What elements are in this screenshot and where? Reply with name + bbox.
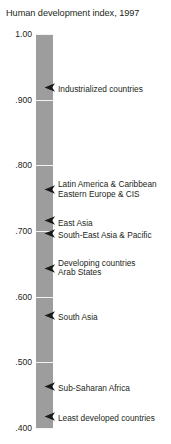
axis-tick-label: .800 bbox=[0, 160, 32, 170]
gridline-p600 bbox=[36, 297, 53, 298]
annotation-group: Latin America & CaribbeanEastern Europe … bbox=[44, 180, 157, 199]
hdi-scale-chart: Human development index, 1997 1.00.900.8… bbox=[0, 0, 171, 444]
arrow-left-icon bbox=[44, 382, 56, 391]
annotation-label: Sub-Saharan Africa bbox=[58, 383, 130, 393]
page-title: Human development index, 1997 bbox=[6, 8, 139, 18]
arrow-left-icon bbox=[44, 311, 56, 320]
annotation-label: Eastern Europe & CIS bbox=[58, 190, 157, 200]
annotation-label: Arab States bbox=[58, 268, 135, 278]
annotation-label-stack: Industrialized countries bbox=[58, 78, 143, 96]
arrow-left-icon bbox=[44, 264, 56, 273]
annotation-group: Developing countriesArab States bbox=[44, 259, 135, 278]
arrow-left-icon bbox=[44, 412, 56, 421]
gridline-p800 bbox=[36, 165, 53, 166]
axis-tick-label: .500 bbox=[0, 357, 32, 367]
arrow-left-icon bbox=[44, 83, 56, 92]
axis-tick-label: .400 bbox=[0, 423, 32, 433]
annotation-group: Least developed countries bbox=[44, 407, 155, 425]
gridline-p500 bbox=[36, 362, 53, 363]
annotation-label: South-East Asia & Pacific bbox=[58, 230, 152, 240]
axis-tick-label: .900 bbox=[0, 95, 32, 105]
annotation-group: Industrialized countries bbox=[44, 78, 143, 96]
annotation-label-stack: South-East Asia & Pacific bbox=[58, 224, 152, 242]
annotation-group: South Asia bbox=[44, 306, 98, 324]
annotation-label: South Asia bbox=[58, 312, 98, 322]
annotation-label-stack: Least developed countries bbox=[58, 407, 155, 425]
annotation-label: Least developed countries bbox=[58, 413, 155, 423]
annotation-label-stack: Developing countriesArab States bbox=[58, 259, 135, 278]
annotation-label: Industrialized countries bbox=[58, 84, 143, 94]
axis-tick-label: .600 bbox=[0, 292, 32, 302]
gridline-1p00 bbox=[36, 34, 53, 35]
annotation-label-stack: South Asia bbox=[58, 306, 98, 324]
annotation-group: South-East Asia & Pacific bbox=[44, 224, 152, 242]
axis-tick-label: 1.00 bbox=[0, 29, 32, 39]
annotation-label-stack: Sub-Saharan Africa bbox=[58, 377, 130, 395]
arrow-left-icon bbox=[44, 229, 56, 238]
gridline-p400 bbox=[36, 428, 53, 429]
annotation-group: Sub-Saharan Africa bbox=[44, 377, 130, 395]
axis-tick-label: .700 bbox=[0, 226, 32, 236]
arrow-left-icon bbox=[44, 185, 56, 194]
annotation-label-stack: Latin America & CaribbeanEastern Europe … bbox=[58, 180, 157, 199]
gridline-p900 bbox=[36, 100, 53, 101]
